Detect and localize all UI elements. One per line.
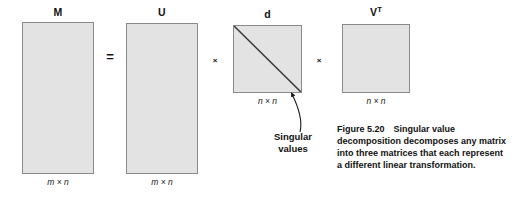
matrix-dimension-vt: n × n <box>342 96 410 106</box>
matrix-label-vt-superscript: T <box>377 5 382 14</box>
singular-values-line-2: values <box>256 143 330 155</box>
figure-container: M m × n = U m × n × d n × n × VT n × n S… <box>0 0 520 201</box>
figure-caption: Figure 5.20Singular value decomposition … <box>337 124 509 172</box>
matrix-label-d: d <box>233 8 302 20</box>
diagonal-line-icon <box>234 26 301 92</box>
operator-equals: = <box>100 50 120 63</box>
figure-caption-number: Figure 5.20 <box>337 124 385 134</box>
matrix-label-vt: VT <box>342 6 410 18</box>
matrix-box-u <box>126 23 198 174</box>
matrix-box-d <box>233 25 302 93</box>
operator-times-second: × <box>309 57 329 65</box>
operator-times-first: × <box>205 57 225 65</box>
matrix-label-u: U <box>126 6 198 18</box>
matrix-box-vt <box>342 24 410 93</box>
matrix-label-m: M <box>22 6 94 18</box>
singular-values-annotation: Singular values <box>256 131 330 155</box>
singular-values-line-1: Singular <box>256 131 330 143</box>
matrix-dimension-d: n × n <box>233 96 302 106</box>
matrix-box-m <box>22 22 94 174</box>
matrix-dimension-u: m × n <box>126 177 198 187</box>
matrix-dimension-m: m × n <box>22 177 94 187</box>
